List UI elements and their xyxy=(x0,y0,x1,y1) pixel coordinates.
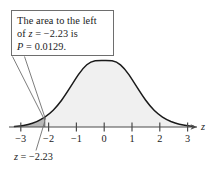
normal-distribution-figure: −3 −2 −1 0 1 2 3 z The area to the left … xyxy=(0,0,212,169)
x-tick-label--1: −1 xyxy=(71,133,82,144)
callout-line-1: The area to the left xyxy=(17,14,113,27)
x-tick-label--2: −2 xyxy=(43,133,54,144)
curve-body-fill xyxy=(45,61,194,127)
x-tick-label-2: 2 xyxy=(157,133,162,144)
callout-box: The area to the left of z = −2.23 is P =… xyxy=(11,10,114,56)
callout-line-2: of z = −2.23 is xyxy=(17,27,113,40)
callout-leader-lines xyxy=(13,57,46,121)
x-tick-label--3: −3 xyxy=(15,133,26,144)
critical-value-annotation: z = −2.23 xyxy=(14,150,53,163)
x-tick-label-1: 1 xyxy=(129,133,134,144)
x-tick-label-0: 0 xyxy=(102,133,107,144)
x-tick-label-3: 3 xyxy=(185,133,190,144)
callout-line-3: P = 0.0129. xyxy=(17,40,113,53)
x-axis-name-label: z xyxy=(200,121,205,132)
